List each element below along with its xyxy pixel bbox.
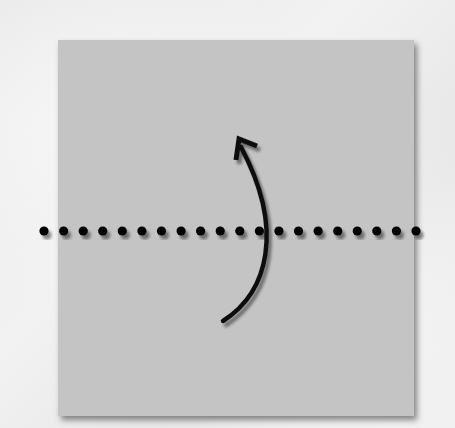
fold-dot [255,226,264,235]
fold-dot [177,226,186,235]
fold-dot [157,226,166,235]
fold-dot [372,226,381,235]
fold-dot [333,226,342,235]
fold-dot [353,226,362,235]
fold-dot [235,226,244,235]
fold-dot [79,226,88,235]
fold-dot [274,226,283,235]
fold-dot [392,226,401,235]
fold-dot [39,226,48,235]
fold-dot [196,226,205,235]
fold-dot [411,226,420,235]
fold-dot [216,226,225,235]
fold-dot [137,226,146,235]
fold-dot [59,226,68,235]
fold-dot [98,226,107,235]
fold-dot [314,226,323,235]
fold-dot [118,226,127,235]
fold-diagram-overlay [0,0,455,428]
fold-dot [294,226,303,235]
fold-line-dotted [39,226,420,235]
